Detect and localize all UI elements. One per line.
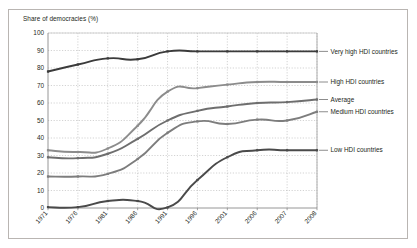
data-point-marker [47, 206, 49, 208]
data-point-marker [196, 87, 198, 89]
data-point-marker [107, 200, 109, 202]
data-point-marker [226, 84, 228, 86]
x-tick-label: 1981 [94, 209, 109, 224]
data-point-marker [316, 81, 318, 83]
data-point-marker [137, 138, 139, 140]
x-tick-labels: 1971197619811986199119962001200620072008 [34, 208, 318, 225]
data-series [47, 50, 318, 209]
data-point-marker [47, 175, 49, 177]
data-point-marker [196, 110, 198, 112]
data-point-marker [77, 175, 79, 177]
y-tick-label: 20 [37, 169, 45, 176]
y-tick-label: 90 [37, 47, 45, 54]
data-point-marker [166, 119, 168, 121]
data-point-marker [166, 50, 168, 52]
chart-plot-area: 0102030405060708090100197119761981198619… [9, 10, 409, 240]
data-point-marker [196, 120, 198, 122]
legend-label[interactable]: High HDI countries [331, 78, 385, 86]
data-point-marker [166, 132, 168, 134]
y-tick-label: 60 [37, 99, 45, 106]
series-path[interactable] [48, 112, 317, 177]
x-tick-label: 2007 [273, 209, 288, 224]
x-tick-label: 1991 [153, 209, 168, 224]
y-tick-label: 10 [37, 187, 45, 194]
data-point-marker [77, 151, 79, 153]
legend-label[interactable]: Low HDI countries [331, 146, 383, 153]
line-chart-svg: 0102030405060708090100197119761981198619… [9, 10, 409, 240]
x-tick-label: 2006 [243, 209, 258, 224]
data-point-marker [137, 158, 139, 160]
data-point-marker [226, 123, 228, 125]
data-point-marker [107, 147, 109, 149]
series-path[interactable] [48, 50, 317, 71]
data-point-marker [286, 149, 288, 151]
data-point-marker [166, 206, 168, 208]
data-point-marker [256, 50, 258, 52]
x-tick-label: 2008 [303, 209, 318, 224]
data-point-marker [226, 50, 228, 52]
legend-label[interactable]: Average [331, 96, 355, 104]
data-point-marker [316, 50, 318, 52]
legend-label[interactable]: Very high HDI countries [331, 48, 398, 56]
figure-frame: Share of democracies (%) 010203040506070… [8, 9, 408, 239]
series-line[interactable] [47, 50, 318, 72]
data-point-marker [286, 119, 288, 121]
series-path[interactable] [48, 82, 317, 153]
data-point-marker [256, 102, 258, 104]
data-point-marker [286, 101, 288, 103]
y-tick-label: 30 [37, 152, 45, 159]
data-point-marker [107, 57, 109, 59]
x-tick-label: 1996 [183, 209, 198, 224]
legend: Very high HDI countriesHigh HDI countrie… [319, 48, 398, 154]
data-point-marker [196, 50, 198, 52]
data-point-marker [137, 125, 139, 127]
y-tick-label: 40 [37, 134, 45, 141]
data-point-marker [286, 50, 288, 52]
y-tick-label: 80 [37, 64, 45, 71]
data-point-marker [47, 156, 49, 158]
data-point-marker [226, 156, 228, 158]
data-point-marker [286, 81, 288, 83]
data-point-marker [226, 105, 228, 107]
data-point-marker [196, 179, 198, 181]
data-point-marker [137, 200, 139, 202]
data-point-marker [77, 206, 79, 208]
x-tick-label: 2001 [213, 209, 228, 224]
data-point-marker [166, 91, 168, 93]
legend-label[interactable]: Medium HDI countries [331, 108, 394, 115]
y-tick-label: 50 [37, 117, 45, 124]
data-point-marker [107, 153, 109, 155]
data-point-marker [256, 119, 258, 121]
x-tick-label: 1986 [124, 209, 139, 224]
data-point-marker [107, 173, 109, 175]
data-point-marker [316, 111, 318, 113]
data-point-marker [47, 70, 49, 72]
y-tick-label: 70 [37, 82, 45, 89]
data-point-marker [47, 149, 49, 151]
x-tick-label: 1971 [34, 209, 49, 224]
series-line[interactable] [47, 81, 318, 153]
data-point-marker [77, 63, 79, 65]
data-point-marker [77, 157, 79, 159]
y-tick-label: 100 [33, 29, 44, 36]
data-point-marker [256, 81, 258, 83]
data-point-marker [256, 149, 258, 151]
data-point-marker [137, 58, 139, 60]
x-tick-label: 1976 [64, 209, 79, 224]
data-point-marker [316, 149, 318, 151]
data-point-marker [316, 98, 318, 100]
y-tick-labels: 0102030405060708090100 [33, 29, 44, 211]
